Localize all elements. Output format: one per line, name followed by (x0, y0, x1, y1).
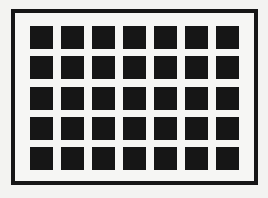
grid-square (61, 117, 84, 140)
grid-square (154, 87, 177, 110)
grid-square (123, 117, 146, 140)
grid-square (30, 117, 53, 140)
grid-square (30, 56, 53, 79)
grid-square (92, 87, 115, 110)
grid-square (61, 147, 84, 170)
grid-square (216, 26, 239, 49)
grid-square (123, 87, 146, 110)
grid-square (216, 56, 239, 79)
grid-square (154, 56, 177, 79)
grid-square (185, 147, 208, 170)
grid-square (216, 87, 239, 110)
grid-square (30, 87, 53, 110)
grid-square (185, 87, 208, 110)
grid-square (123, 56, 146, 79)
grid-square (185, 26, 208, 49)
grid-square (92, 147, 115, 170)
grid-square (185, 117, 208, 140)
grid-square (123, 26, 146, 49)
grid-square (92, 26, 115, 49)
grid-square (123, 147, 146, 170)
grid-square (185, 56, 208, 79)
grid-square (92, 117, 115, 140)
grid-frame (11, 9, 258, 185)
grid-square (154, 147, 177, 170)
grid-square (30, 147, 53, 170)
grid-square (154, 26, 177, 49)
grid-square (92, 56, 115, 79)
grid-square (30, 26, 53, 49)
grid-square (61, 87, 84, 110)
grid-square (61, 56, 84, 79)
grid-square (216, 117, 239, 140)
grid-square (154, 117, 177, 140)
grid-square (216, 147, 239, 170)
grid-square (61, 26, 84, 49)
